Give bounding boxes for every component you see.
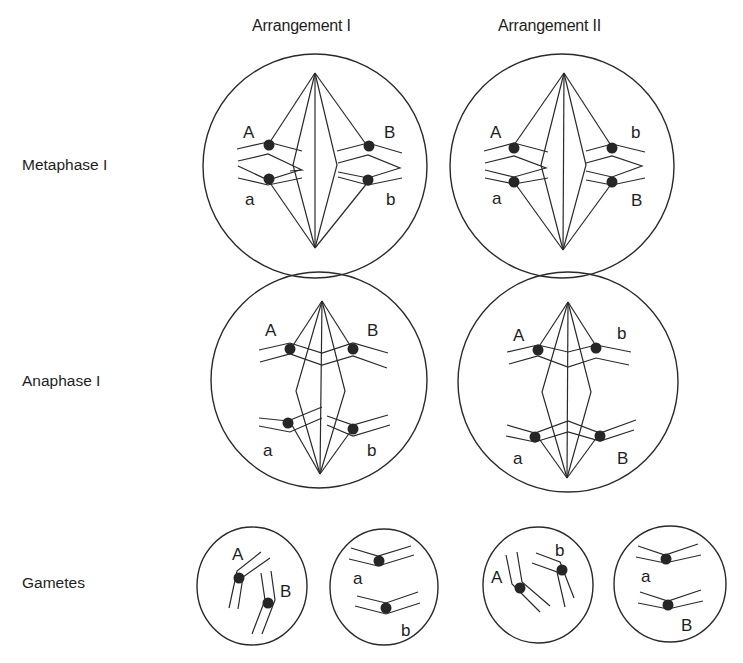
gamete-cell-Ab: A b (483, 527, 593, 643)
anaphase-cell-arrangement-2: A b a B (458, 272, 678, 492)
allele-label: a (492, 189, 502, 208)
metaphase-cell-arrangement-1: A a B b (203, 54, 427, 278)
gamete-cell-ab: a b (330, 529, 438, 645)
allele-label: A (243, 123, 255, 142)
allele-label: a (353, 569, 363, 588)
allele-label: B (280, 582, 291, 601)
allele-label: A (513, 326, 525, 345)
allele-label: B (617, 449, 628, 468)
allele-label: B (384, 123, 395, 142)
gamete-cell-AB: A B (197, 527, 307, 645)
allele-label: a (245, 190, 255, 209)
allele-label: B (681, 616, 692, 635)
spindle-icon (535, 302, 600, 478)
allele-label: a (263, 441, 273, 460)
meiosis-diagram: A a B b A a b B (0, 0, 743, 663)
allele-label: a (513, 449, 523, 468)
anaphase-cell-arrangement-1: A B a b (211, 272, 427, 488)
gamete-cell-aB: a B (614, 526, 726, 642)
allele-label: b (617, 324, 626, 343)
allele-label: b (631, 123, 640, 142)
allele-label: B (631, 191, 642, 210)
metaphase-cell-arrangement-2: A a b B (450, 54, 674, 278)
allele-label: b (367, 441, 376, 460)
allele-label: A (490, 123, 502, 142)
spindle-icon (289, 301, 353, 474)
allele-label: b (555, 541, 564, 560)
allele-label: b (386, 190, 395, 209)
allele-label: A (232, 545, 244, 564)
allele-label: A (491, 568, 503, 587)
allele-label: B (367, 321, 378, 340)
allele-label: a (641, 567, 651, 586)
allele-label: b (401, 621, 410, 640)
allele-label: A (265, 321, 277, 340)
